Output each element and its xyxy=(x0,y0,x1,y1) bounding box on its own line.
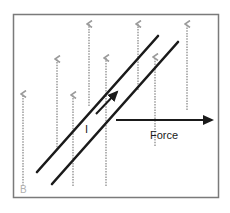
field-label: B xyxy=(20,184,27,195)
current-label: I xyxy=(85,123,88,135)
force-label: Force xyxy=(150,129,178,141)
magnetic-force-diagram: I Force B xyxy=(0,0,230,213)
